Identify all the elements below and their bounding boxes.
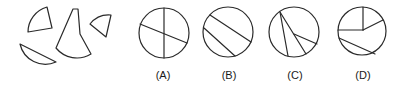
option-c-figure[interactable] [269,7,319,57]
piece-middle-wedge [56,9,91,58]
option-b-chord-upper [210,15,251,42]
piece-sector-right [90,15,111,37]
option-d-label[interactable]: (D) [355,69,370,81]
option-c-label[interactable]: (C) [287,69,302,81]
option-d-figure[interactable] [338,7,386,55]
option-a-figure[interactable] [139,8,189,58]
puzzle-figure [0,0,404,92]
option-b-figure[interactable] [203,7,253,57]
option-c-circle [269,7,319,57]
option-a-label[interactable]: (A) [156,69,171,81]
option-b-chord-lower [204,28,235,56]
option-d-radial-line [363,20,383,30]
piece-segment-bottom [20,44,56,64]
option-b-label[interactable]: (B) [222,69,237,81]
piece-sector-top-left [28,7,52,32]
option-c-line-3 [294,34,317,44]
given-pieces [20,7,111,64]
option-d-chord-lower [339,38,375,54]
